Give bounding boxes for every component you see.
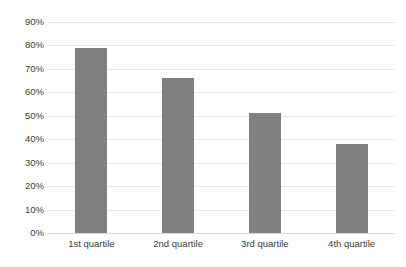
y-axis: 90% 80% 70% 60% 50% 40% 30% 20% 10% 0% bbox=[0, 0, 44, 267]
bar-4th-quartile[interactable] bbox=[336, 144, 368, 233]
y-axis-tick-label: 50% bbox=[0, 111, 44, 121]
y-axis-tick-label: 60% bbox=[0, 87, 44, 97]
y-axis-tick-label: 30% bbox=[0, 158, 44, 168]
y-axis-tick-label: 0% bbox=[0, 228, 44, 238]
bar-slot bbox=[135, 22, 222, 233]
bar-3rd-quartile[interactable] bbox=[249, 113, 281, 233]
y-axis-tick-label: 10% bbox=[0, 205, 44, 215]
x-axis-tick-label-4th-quartile: 4th quartile bbox=[308, 238, 395, 250]
x-axis-tick-label-1st-quartile: 1st quartile bbox=[48, 238, 135, 250]
bar-2nd-quartile[interactable] bbox=[162, 78, 194, 233]
x-axis-tick-label-2nd-quartile: 2nd quartile bbox=[135, 238, 222, 250]
gridline-0-baseline bbox=[48, 233, 395, 234]
bar-slot bbox=[48, 22, 135, 233]
bars-layer bbox=[48, 22, 395, 233]
bar-chart: 90% 80% 70% 60% 50% 40% 30% 20% 10% 0% bbox=[0, 0, 406, 267]
x-axis-tick-label-3rd-quartile: 3rd quartile bbox=[222, 238, 309, 250]
y-axis-tick-label: 40% bbox=[0, 134, 44, 144]
x-axis: 1st quartile 2nd quartile 3rd quartile 4… bbox=[48, 238, 395, 250]
y-axis-tick-label: 80% bbox=[0, 40, 44, 50]
y-axis-tick-label: 70% bbox=[0, 64, 44, 74]
bar-slot bbox=[308, 22, 395, 233]
bar-1st-quartile[interactable] bbox=[75, 48, 107, 233]
y-axis-tick-label: 20% bbox=[0, 181, 44, 191]
bar-slot bbox=[222, 22, 309, 233]
plot-area bbox=[48, 22, 395, 233]
y-axis-tick-label: 90% bbox=[0, 17, 44, 27]
